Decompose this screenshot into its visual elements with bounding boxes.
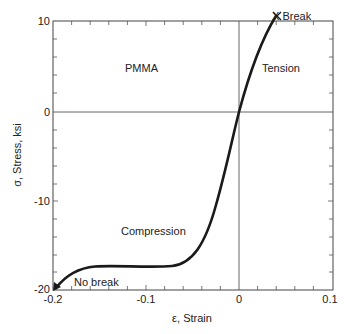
y-tick-label: -20 (34, 283, 50, 295)
x-axis-title: ε, Strain (172, 312, 212, 324)
material-label: PMMA (125, 62, 159, 74)
no-break-label: No break (74, 276, 119, 288)
y-tick-label: 10 (38, 15, 50, 27)
x-tick-label: 0 (236, 293, 242, 305)
y-axis-title: σ, Stress, ksi (11, 123, 23, 187)
stress-strain-curve (56, 16, 276, 288)
stress-strain-chart: PMMA Tension Compression X Break No brea… (0, 0, 351, 334)
x-tick-label: -0.1 (137, 293, 156, 305)
y-tick-label: -10 (34, 195, 50, 207)
tension-label: Tension (262, 62, 300, 74)
compression-label: Compression (121, 225, 186, 237)
y-tick-label: 0 (44, 106, 50, 118)
x-tick-label: 0.1 (322, 293, 337, 305)
break-label: X Break (272, 10, 312, 22)
